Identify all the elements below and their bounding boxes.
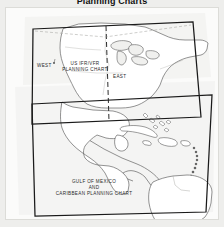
figure-title: Planning Charts <box>0 0 224 6</box>
chart-page: WEST EAST US IFR/VFR PLANNING CHART GULF… <box>5 7 219 220</box>
label-gulf-line2: AND <box>89 185 100 190</box>
label-west: WEST <box>37 63 52 68</box>
coverage-map <box>5 7 219 220</box>
label-us-chart-line2: PLANNING CHART <box>62 67 107 72</box>
planning-charts-figure: WEST EAST US IFR/VFR PLANNING CHART GULF… <box>0 0 224 227</box>
label-gulf-line3: CARIBBEAN PLANNING CHART <box>56 191 133 196</box>
label-us-chart-line1: US IFR/VFR <box>70 61 99 66</box>
label-gulf-line1: GULF OF MEXICO <box>72 179 116 184</box>
label-east: EAST <box>113 74 126 79</box>
